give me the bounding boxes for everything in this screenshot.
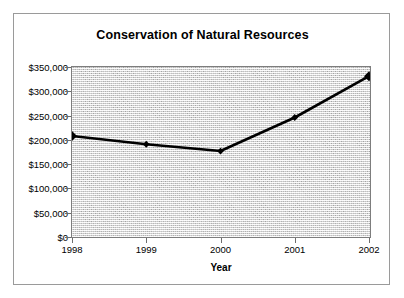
y-axis-tick-marks: [14, 66, 71, 238]
x-tick-mark: [146, 238, 147, 243]
chart-frame: Conservation of Natural Resources $0$50,…: [13, 13, 390, 285]
data-point-marker: [72, 131, 77, 141]
chart-title: Conservation of Natural Resources: [14, 28, 391, 42]
x-tick-label: 1998: [42, 244, 102, 255]
data-point-marker: [143, 141, 150, 148]
x-tick-label: 1999: [116, 244, 176, 255]
x-tick-mark: [72, 238, 73, 243]
plot-area: [71, 66, 371, 238]
x-axis-title: Year: [71, 262, 371, 273]
x-axis-tick-labels: 19981999200020012002: [71, 244, 371, 258]
x-tick-mark: [369, 238, 370, 243]
line-path: [72, 76, 369, 151]
x-tick-label: 2001: [265, 244, 325, 255]
x-tick-label: 2000: [191, 244, 251, 255]
data-series-line: [72, 67, 370, 237]
x-tick-mark: [221, 238, 222, 243]
x-tick-label: 2002: [339, 244, 399, 255]
x-tick-mark: [295, 238, 296, 243]
